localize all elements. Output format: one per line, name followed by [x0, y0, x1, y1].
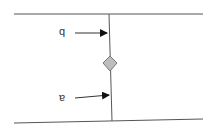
arrow-a: [75, 95, 109, 98]
junction-diamond: [103, 56, 117, 71]
label-a: ɐ: [59, 92, 65, 103]
diagram-canvas: [0, 0, 215, 134]
label-q: q: [59, 26, 65, 37]
bottom-boundary-line: [14, 119, 203, 123]
